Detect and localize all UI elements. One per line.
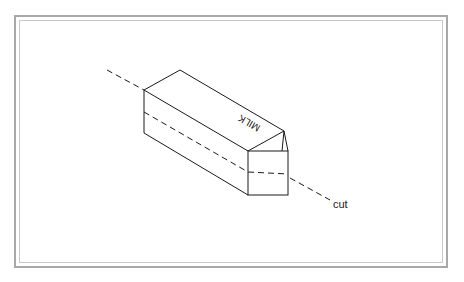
cut-label: cut	[333, 198, 348, 210]
carton-outline	[144, 70, 288, 195]
milk-carton-diagram: MILK cut	[0, 0, 464, 282]
cut-line	[107, 70, 330, 200]
